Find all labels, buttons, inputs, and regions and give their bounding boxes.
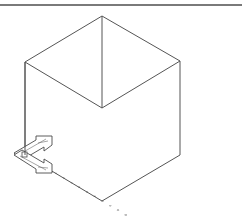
drawing-canvas: [0, 0, 246, 217]
dot-grid: [24, 154, 242, 217]
ucs-icon: [14, 136, 52, 173]
drawing-viewport[interactable]: [0, 0, 246, 217]
cube-edge-center-right: [102, 61, 180, 108]
cube-edge-center-left: [25, 62, 102, 108]
cube-edge-top-right: [102, 16, 180, 61]
cube-edge-top-left: [25, 16, 102, 62]
cube-edge-bottom-right: [102, 155, 180, 201]
